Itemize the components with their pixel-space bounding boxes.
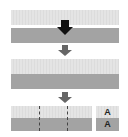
step3-light-bar [11,106,92,118]
side-label: A [96,118,119,131]
side-label: A [96,106,119,118]
step2-light-bar [11,59,119,74]
division-line [39,106,40,131]
step2-dark-bar [11,74,119,89]
down-arrow-gray-head-icon [58,97,72,103]
step3-dark-bar [11,118,92,131]
down-arrow-black-head-icon [57,27,73,35]
division-line [67,106,68,131]
down-arrow-gray-head-icon [58,50,72,56]
